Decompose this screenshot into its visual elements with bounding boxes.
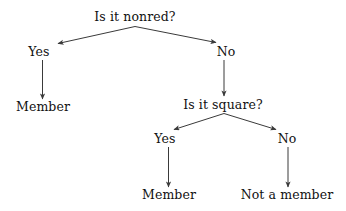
branch-label-no-square: No — [278, 133, 297, 146]
decision-tree-diagram: Is it nonred? Yes No Member Is it square… — [0, 0, 346, 211]
edge-square-to-no — [224, 114, 276, 130]
edge-square-to-yes — [174, 114, 224, 130]
branch-label-yes-square: Yes — [154, 133, 175, 146]
edge-root-to-no — [135, 27, 216, 43]
root-question-label: Is it nonred? — [94, 11, 175, 24]
leaf-member-left: Member — [16, 101, 70, 114]
second-question-label: Is it square? — [183, 99, 263, 112]
branch-label-no-nonred: No — [217, 46, 236, 59]
branch-label-yes-nonred: Yes — [28, 46, 49, 59]
leaf-member-bottom: Member — [142, 189, 196, 202]
edge-root-to-yes — [58, 27, 135, 44]
leaf-not-a-member: Not a member — [241, 189, 334, 202]
